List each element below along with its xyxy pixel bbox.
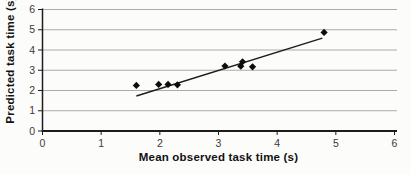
scatter-chart-figure: 01234560123456 Predicted task time (s) M… [0,0,410,174]
data-point [155,81,162,88]
x-tick-label: 4 [274,137,280,149]
x-tick-label: 5 [333,137,339,149]
tick-marks [38,10,395,136]
data-point [133,82,140,89]
x-tick-label: 0 [40,137,46,149]
x-axis-title: Mean observed task time (s) [139,151,298,163]
y-axis-title: Predicted task time (s) [4,0,16,124]
y-tick-label: 3 [29,64,35,76]
tick-labels: 01234560123456 [29,3,397,149]
x-tick-label: 3 [216,137,222,149]
y-tick-label: 1 [29,104,35,116]
x-tick-label: 2 [157,137,163,149]
trend-line [136,38,322,96]
x-tick-label: 6 [392,137,398,149]
y-tick-label: 6 [29,3,35,15]
gridlines [43,10,398,111]
chart-canvas: 01234560123456 Predicted task time (s) M… [0,0,410,174]
x-tick-label: 1 [98,137,104,149]
y-tick-label: 2 [29,84,35,96]
data-points [133,29,328,89]
y-tick-label: 5 [29,23,35,35]
y-tick-label: 4 [29,44,35,56]
y-tick-label: 0 [29,125,35,137]
data-point [249,63,256,70]
